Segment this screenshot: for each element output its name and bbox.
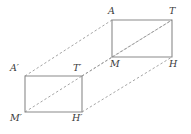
vertex-label-A-prime: A′ bbox=[10, 63, 19, 73]
geometry-figure: ATMHA′T′M′H′ bbox=[0, 0, 191, 134]
diagonal-Mprime-Tprime bbox=[25, 76, 82, 112]
vertex-label-M: M bbox=[110, 59, 120, 69]
geometry-canvas bbox=[0, 0, 191, 134]
vertex-label-H: H bbox=[169, 59, 177, 69]
vertex-label-T: T bbox=[169, 6, 175, 16]
connector-Hprime-H bbox=[82, 57, 172, 112]
vertex-label-A: A bbox=[108, 6, 115, 16]
vertex-label-M-prime: M′ bbox=[10, 113, 22, 123]
dashed-lines-group bbox=[25, 20, 172, 112]
connector-Tprime-T bbox=[82, 20, 172, 76]
vertex-label-T-prime: T′ bbox=[73, 63, 82, 73]
connector-Aprime-A bbox=[25, 20, 112, 76]
vertex-label-H-prime: H′ bbox=[72, 113, 82, 123]
